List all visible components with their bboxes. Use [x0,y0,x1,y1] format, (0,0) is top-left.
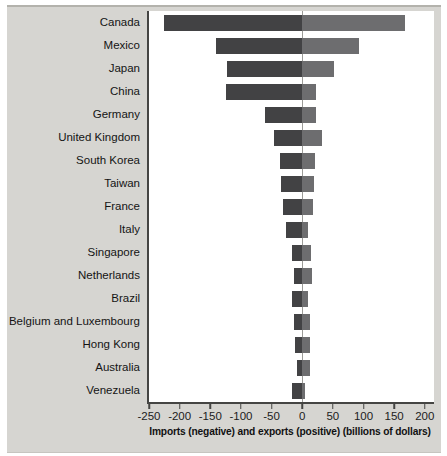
exports-bar [302,84,315,100]
exports-bar [302,268,312,284]
exports-bar [302,61,334,77]
imports-bar [295,337,302,353]
x-axis-tick-label: -150 [199,410,222,422]
imports-bar [265,107,302,123]
chart-panel: CanadaMexicoJapanChinaGermanyUnited King… [7,5,441,453]
exports-bar [302,383,304,399]
x-axis-tick [179,404,181,409]
imports-bar [283,199,302,215]
exports-bar [302,153,315,169]
x-axis-tick [363,404,365,409]
x-axis-tick [240,404,242,409]
category-label: Germany [93,103,140,126]
category-label: United Kingdom [58,126,140,149]
x-axis-tick-label: -200 [168,410,191,422]
imports-bar [226,84,302,100]
x-axis-tick [148,404,150,409]
x-axis-tick-label: 0 [299,410,305,422]
x-axis-tick [210,404,212,409]
exports-bar [302,291,308,307]
exports-bar [302,337,310,353]
exports-bar [302,15,405,31]
imports-bar [280,153,302,169]
category-label: Italy [119,218,140,241]
exports-bar [302,222,308,238]
imports-bar [286,222,302,238]
imports-bar [164,15,302,31]
imports-bar [294,314,303,330]
imports-bar [294,268,302,284]
imports-bar [274,130,302,146]
x-axis-title: Imports (negative) and exports (positive… [149,426,431,437]
category-label: South Korea [76,149,140,172]
exports-bar [302,314,310,330]
category-label: Canada [100,11,140,34]
exports-bar [302,176,314,192]
imports-bar [292,291,302,307]
exports-bar [302,130,322,146]
x-axis-tick-label: 150 [385,410,404,422]
x-axis-tick [424,404,426,409]
category-label: China [110,80,140,103]
x-axis-tick [271,404,273,409]
x-axis-tick-label: 200 [415,410,434,422]
imports-bar [292,245,302,261]
category-label: Mexico [104,34,140,57]
x-axis-tick-label: 100 [354,410,373,422]
x-axis-tick-label: -100 [229,410,252,422]
category-label: Taiwan [104,172,140,195]
imports-bar [281,176,302,192]
category-label: Netherlands [78,264,140,287]
category-label: Singapore [88,241,140,264]
category-labels: CanadaMexicoJapanChinaGermanyUnited King… [7,11,140,402]
imports-bar [292,383,302,399]
category-label: Venezuela [86,379,140,402]
category-label: France [104,195,140,218]
imports-bar [216,38,302,54]
figure: CanadaMexicoJapanChinaGermanyUnited King… [0,0,447,456]
exports-bar [302,38,359,54]
x-axis-tick [332,404,334,409]
x-axis-tick-label: 50 [326,410,339,422]
x-axis-tick-label: -50 [263,410,280,422]
category-label: Belgium and Luxembourg [9,310,140,333]
x-axis-tick-label: -250 [137,410,160,422]
exports-bar [302,360,310,376]
imports-bar [227,61,302,77]
category-label: Australia [95,356,140,379]
x-axis-tick [301,404,303,409]
exports-bar [302,199,313,215]
category-label: Hong Kong [82,333,140,356]
category-label: Brazil [111,287,140,310]
exports-bar [302,107,315,123]
plot-area [147,11,434,404]
x-axis-tick [393,404,395,409]
exports-bar [302,245,311,261]
category-label: Japan [109,57,140,80]
